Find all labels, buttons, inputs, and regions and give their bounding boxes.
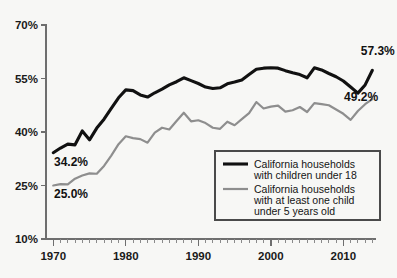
series-line-children-under-18 — [53, 68, 372, 153]
x-tick-label-2000: 2000 — [258, 250, 284, 262]
y-axis-ticks — [41, 25, 46, 239]
primary-end-label: 57.3% — [361, 44, 395, 58]
legend-label-child-under-5-line3: under 5 years old — [254, 205, 335, 217]
y-tick-label-40: 40% — [15, 126, 38, 138]
legend-label-children-under-18-line2: with children under 18 — [253, 169, 357, 181]
x-tick-label-1990: 1990 — [186, 250, 212, 262]
line-chart-svg: 10%25%40%55%70% 19701980199020002010 34.… — [0, 0, 397, 278]
primary-start-label: 34.2% — [54, 155, 88, 169]
x-axis-tick-labels: 19701980199020002010 — [40, 250, 356, 262]
chart-legend: California householdswith children under… — [215, 151, 380, 220]
y-axis-tick-labels: 10%25%40%55%70% — [15, 19, 38, 245]
x-tick-label-1970: 1970 — [40, 250, 66, 262]
secondary-end-label: 49.2% — [344, 90, 378, 104]
y-tick-label-10: 10% — [15, 233, 38, 245]
y-tick-label-25: 25% — [15, 180, 38, 192]
chart-container: 10%25%40%55%70% 19701980199020002010 34.… — [0, 0, 397, 278]
y-tick-label-70: 70% — [15, 19, 38, 31]
x-tick-label-1980: 1980 — [113, 250, 139, 262]
x-tick-label-2010: 2010 — [331, 250, 357, 262]
secondary-start-label: 25.0% — [54, 187, 88, 201]
y-tick-label-55: 55% — [15, 73, 38, 85]
